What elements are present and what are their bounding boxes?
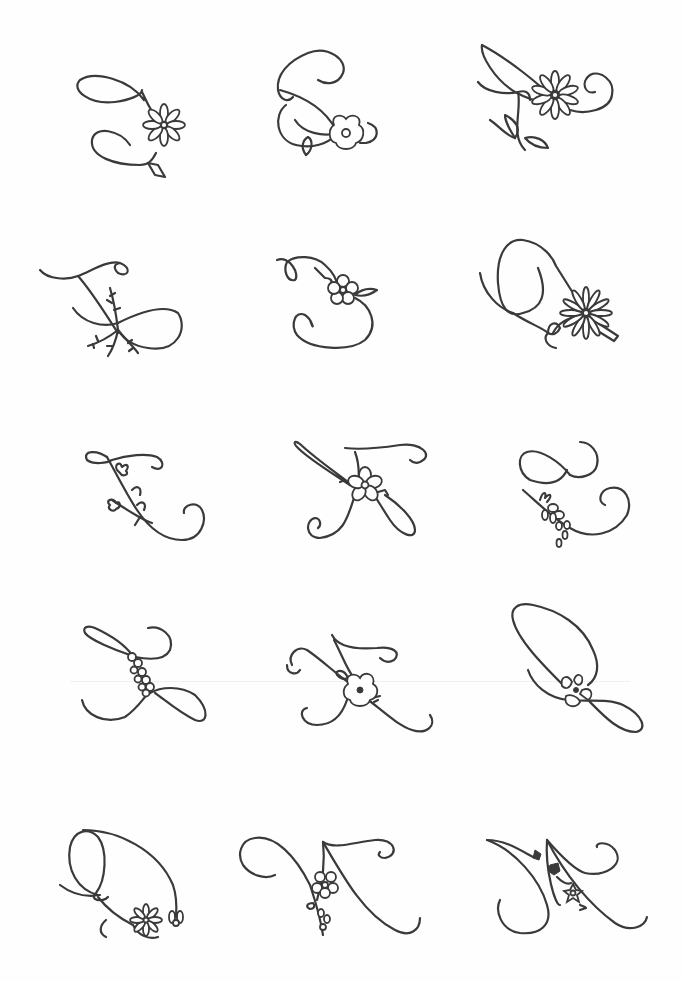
daisy-icon bbox=[143, 104, 185, 146]
flower-with-buds-icon bbox=[307, 872, 338, 930]
letter-n-drawing bbox=[235, 830, 430, 940]
letter-a-drawing bbox=[70, 65, 200, 185]
monogram-k: K bbox=[282, 630, 442, 740]
monogram-sheet: A B bbox=[0, 0, 684, 981]
monogram-l: L bbox=[508, 600, 653, 740]
letter-m-drawing bbox=[58, 825, 193, 950]
monogram-f: F bbox=[478, 238, 633, 353]
monogram-g: G bbox=[82, 445, 217, 550]
daisy-icon bbox=[560, 287, 612, 339]
letter-c-drawing bbox=[470, 40, 630, 155]
letter-f-drawing bbox=[478, 238, 633, 353]
daisy-icon bbox=[531, 71, 579, 119]
letter-k-drawing bbox=[282, 630, 442, 740]
letter-d-drawing bbox=[38, 258, 188, 358]
monogram-e: E bbox=[275, 250, 390, 355]
letter-b-drawing bbox=[268, 45, 398, 170]
monogram-h: H bbox=[290, 440, 440, 545]
daisy-icon bbox=[130, 904, 162, 936]
letter-i-drawing bbox=[515, 440, 640, 555]
letter-g-drawing bbox=[82, 445, 217, 550]
monogram-b: B bbox=[268, 45, 398, 170]
monogram-d: D bbox=[38, 258, 188, 358]
wild-rose-icon bbox=[330, 116, 364, 149]
letter-e-drawing bbox=[275, 250, 390, 355]
wild-rose-icon bbox=[344, 674, 378, 706]
monogram-a: A bbox=[70, 65, 200, 185]
letter-h-drawing bbox=[290, 440, 440, 545]
monogram-n: N bbox=[235, 830, 430, 940]
letter-o-drawing bbox=[485, 835, 650, 935]
berry-sprig-icon bbox=[540, 493, 570, 547]
five-petal-flower-icon bbox=[328, 275, 358, 304]
monogram-m: M bbox=[58, 825, 193, 950]
monogram-i: I bbox=[515, 440, 640, 555]
monogram-o: O bbox=[485, 835, 650, 935]
star-flowers-icon bbox=[533, 850, 586, 910]
letter-l-drawing bbox=[508, 600, 653, 740]
monogram-j: J bbox=[80, 625, 215, 725]
monogram-c: C bbox=[470, 40, 630, 155]
letter-j-drawing bbox=[80, 625, 215, 725]
five-petal-flower-icon bbox=[347, 467, 384, 503]
